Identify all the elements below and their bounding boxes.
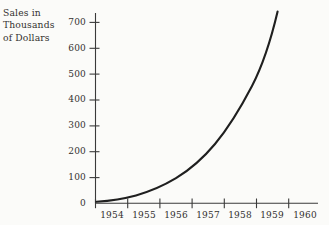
y-tick-label-0: 0 <box>52 199 86 208</box>
chart-screenshot: . Sales in Thousands of Dollars <box>0 0 329 225</box>
y-tick-label-600: 600 <box>52 44 86 53</box>
y-tick-label-400: 400 <box>52 95 86 104</box>
y-tick-label-700: 700 <box>52 18 86 27</box>
y-tick-label-100: 100 <box>52 173 86 182</box>
y-tick-label-500: 500 <box>52 70 86 79</box>
sales-curve <box>97 12 278 202</box>
y-tick-label-200: 200 <box>52 147 86 156</box>
x-tick-label-1960: 1960 <box>285 211 325 220</box>
y-tick-label-300: 300 <box>52 121 86 130</box>
y-tick-marks <box>90 22 100 177</box>
plot-area <box>0 0 329 225</box>
